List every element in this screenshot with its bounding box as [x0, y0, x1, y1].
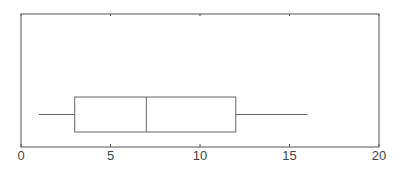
- x-tick-label: 20: [372, 148, 386, 163]
- iqr-box: [75, 97, 236, 132]
- x-tick-label: 10: [193, 148, 207, 163]
- x-tick-label: 0: [17, 148, 24, 163]
- box-plot: [39, 97, 308, 132]
- box-plot-chart: 05101520: [0, 0, 405, 171]
- x-axis: 05101520: [17, 14, 386, 163]
- x-tick-label: 15: [282, 148, 296, 163]
- x-tick-label: 5: [107, 148, 114, 163]
